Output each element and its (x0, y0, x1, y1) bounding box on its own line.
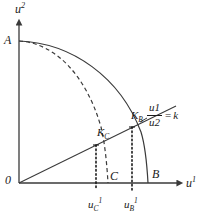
ratio-numerator: u1 (147, 102, 162, 114)
ratio-denominator: u2 (147, 117, 162, 129)
equals-sign: = (165, 109, 171, 121)
ratio-value: k (173, 109, 178, 121)
ray-equation-label: u1 u2 = k (147, 102, 178, 128)
point-label-a: A (4, 34, 11, 46)
ratio-fraction: u1 u2 (147, 102, 162, 128)
point-label-c: C (110, 170, 118, 182)
point-label-kc: KC (97, 127, 109, 141)
point-label-kb: KB (131, 110, 143, 124)
x-axis-label: u1 (186, 176, 196, 189)
y-axis-label: u2 (15, 2, 25, 15)
tick-label-ub: uB1 (124, 197, 138, 212)
frontier-curve-b (19, 41, 148, 183)
origin-label: 0 (5, 174, 11, 186)
tick-label-uc: uC1 (88, 197, 102, 212)
point-label-b: B (152, 168, 159, 180)
ppf-diagram: u2 u1 0 A B C KC KB uC1 uB1 u1 u2 = k (0, 0, 205, 224)
